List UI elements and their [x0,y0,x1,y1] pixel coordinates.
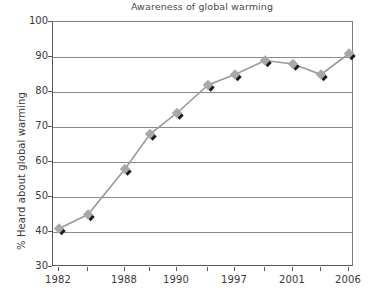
y-axis-tick-label: 100 [18,15,48,26]
x-axis-tick-mark [58,267,59,271]
y-axis-tick-label: 40 [18,225,48,236]
x-axis-tick-mark [124,267,125,271]
y-axis-title-container: % Heard about global warming [0,0,18,270]
x-axis-tick-mark [292,267,293,271]
chart-figure: Awareness of global warming % Heard abou… [0,0,372,295]
y-axis-tick-label: 70 [18,120,48,131]
plot-area [52,21,353,266]
x-axis-tick-mark [207,267,208,271]
x-axis-tick-label: 2006 [328,274,368,285]
y-axis-tick-label: 50 [18,190,48,201]
x-axis-tick-mark [149,267,150,271]
x-axis-tick-label: 1982 [38,274,78,285]
series-line [59,54,349,229]
y-axis-tick-mark [48,266,52,267]
data-series [53,22,354,267]
x-axis-tick-label: 1988 [104,274,144,285]
y-axis-tick-label: 80 [18,85,48,96]
y-axis-tick-label: 30 [18,260,48,271]
chart-title: Awareness of global warming [52,1,352,12]
y-axis-tick-label: 90 [18,50,48,61]
x-axis-tick-mark [87,267,88,271]
x-axis-tick-mark [264,267,265,271]
y-axis-tick-label: 60 [18,155,48,166]
x-axis-tick-mark [348,267,349,271]
x-axis-tick-mark [234,267,235,271]
x-axis-tick-label: 1997 [214,274,254,285]
x-axis-tick-label: 2001 [272,274,312,285]
x-axis-tick-label: 1990 [156,274,196,285]
x-axis-tick-mark [176,267,177,271]
x-axis-tick-mark [320,267,321,271]
